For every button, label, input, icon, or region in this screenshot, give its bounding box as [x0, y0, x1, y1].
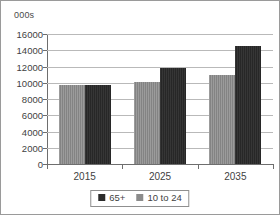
bar-group — [134, 34, 186, 164]
x-axis-tick-label: 2025 — [130, 171, 190, 182]
bar-series-old — [160, 68, 186, 164]
y-axis-tick-label: 6000 — [3, 110, 43, 121]
y-axis-tick-label: 8000 — [3, 94, 43, 105]
legend-entry: 10 to 24 — [136, 193, 181, 203]
bar-series-young — [59, 85, 85, 164]
y-axis-tick — [43, 83, 47, 84]
y-axis-tick-label: 0 — [3, 159, 43, 170]
gridline — [47, 164, 273, 165]
bar-series-old — [85, 85, 111, 164]
y-axis-tick — [43, 132, 47, 133]
x-axis-tick-label: 2035 — [205, 171, 265, 182]
chart-legend: 65+10 to 24 — [90, 190, 189, 207]
legend-label: 65+ — [109, 193, 125, 203]
y-axis-tick — [43, 99, 47, 100]
bar-group — [209, 34, 261, 164]
y-axis-tick-label: 2000 — [3, 142, 43, 153]
bar-group — [59, 34, 111, 164]
x-axis-tick — [198, 164, 199, 169]
legend-swatch-icon — [136, 194, 143, 201]
x-axis-tick — [122, 164, 123, 169]
x-axis-tick — [273, 164, 274, 169]
y-axis-tick-label: 12000 — [3, 61, 43, 72]
y-axis-tick — [43, 164, 47, 165]
y-axis-tick-label: 4000 — [3, 126, 43, 137]
y-axis-tick — [43, 50, 47, 51]
y-axis-tick — [43, 67, 47, 68]
bar-chart-figure: 000s 02000400060008000100001200014000160… — [0, 0, 280, 215]
y-axis-tick — [43, 148, 47, 149]
y-axis-tick — [43, 115, 47, 116]
y-axis-tick-labels: 0200040006000800010000120001400016000 — [1, 1, 43, 215]
bar-series-young — [134, 82, 160, 164]
y-axis-tick-label: 16000 — [3, 29, 43, 40]
x-axis-tick-label: 2015 — [55, 171, 115, 182]
y-axis-tick-label: 10000 — [3, 77, 43, 88]
x-axis-tick — [47, 164, 48, 169]
bar-series-old — [235, 46, 261, 164]
y-axis-tick-label: 14000 — [3, 45, 43, 56]
y-axis-tick — [43, 34, 47, 35]
bar-series-young — [209, 75, 235, 164]
legend-label: 10 to 24 — [147, 193, 181, 203]
legend-swatch-icon — [98, 194, 105, 201]
plot-bars — [47, 34, 273, 164]
legend-entry: 65+ — [98, 193, 125, 203]
